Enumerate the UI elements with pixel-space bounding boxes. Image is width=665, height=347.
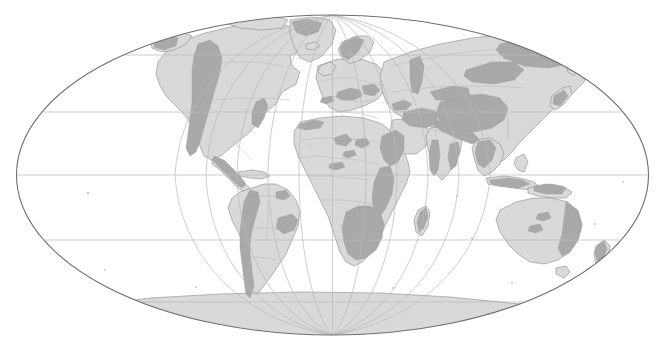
island-dot <box>594 223 596 225</box>
island-dot <box>284 296 286 298</box>
island-dot <box>622 181 624 183</box>
island-dot <box>309 146 311 148</box>
island-dot <box>195 286 197 288</box>
island-dot <box>511 282 513 284</box>
island-dot <box>104 269 106 271</box>
world-map <box>0 0 665 347</box>
world-map-svg <box>0 0 665 347</box>
island-dot <box>471 237 473 239</box>
island-dot <box>87 192 89 194</box>
island-dot <box>392 287 394 289</box>
island-dot <box>401 181 403 183</box>
island-dot <box>456 195 458 197</box>
